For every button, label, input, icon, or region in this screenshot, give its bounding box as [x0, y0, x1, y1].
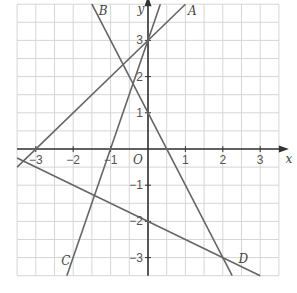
y-tick-label: 1: [136, 106, 143, 120]
y-tick-label: −1: [129, 178, 143, 192]
y-tick-label: −2: [129, 214, 143, 228]
x-tick-label: 1: [182, 153, 189, 167]
x-tick-label: 3: [257, 153, 264, 167]
line-a: [17, 4, 185, 167]
y-tick-label: −3: [129, 251, 143, 265]
origin-label: O: [133, 153, 143, 167]
x-tick-label: −1: [104, 153, 118, 167]
line-label-b: B: [98, 4, 108, 18]
line-label-c: C: [61, 254, 70, 268]
x-tick-label: 2: [219, 153, 226, 167]
coordinate-graph: −3−2−1123321−1−2−3OxyABCD: [0, 0, 297, 293]
y-axis-arrow-icon: [145, 0, 152, 6]
x-tick-label: −3: [29, 153, 43, 167]
y-axis-label: y: [137, 2, 145, 16]
line-label-d: D: [238, 252, 249, 266]
x-tick-label: −2: [66, 153, 80, 167]
axes: [17, 0, 289, 276]
y-tick-label: 3: [136, 33, 143, 47]
x-axis-label: x: [286, 152, 293, 166]
line-label-a: A: [187, 4, 197, 18]
y-tick-label: 2: [136, 70, 143, 84]
